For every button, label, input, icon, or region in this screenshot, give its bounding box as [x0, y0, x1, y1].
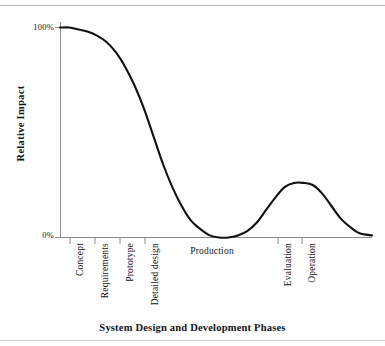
y-tick-label-0: 0%: [14, 230, 54, 240]
chart-svg: [0, 0, 385, 346]
x-tick-label-production: Production: [190, 246, 234, 256]
x-axis-title: System Design and Development Phases: [0, 322, 385, 333]
chart-plot-area: 100% 0% Relative Impact Concept Requirem…: [0, 0, 385, 346]
figure-canvas: 100% 0% Relative Impact Concept Requirem…: [0, 0, 385, 346]
impact-curve: [60, 27, 372, 237]
y-tick-label-100: 100%: [14, 22, 54, 32]
y-axis-title: Relative Impact: [15, 64, 26, 184]
